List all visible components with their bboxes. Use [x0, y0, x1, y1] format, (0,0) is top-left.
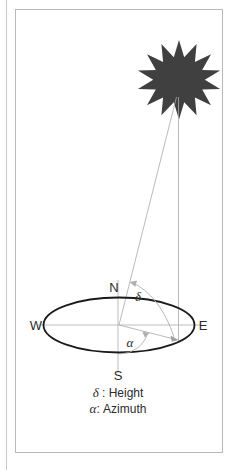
legend-azimuth-label: Azimuth	[103, 402, 146, 416]
legend-height-label: Height	[109, 386, 144, 400]
height-arc-arrowhead-icon	[130, 281, 138, 287]
cardinal-label-south: S	[114, 368, 123, 383]
sight-line-to-sun	[119, 97, 177, 325]
legend-height-separator: :	[99, 386, 109, 400]
cardinal-label-east: E	[199, 318, 208, 333]
legend-item-azimuth: α: Azimuth	[0, 401, 236, 417]
legend-item-height: δ : Height	[0, 385, 236, 401]
cardinal-label-north: N	[109, 280, 118, 295]
height-angle-label: δ	[135, 289, 142, 304]
figure-page: N S E W δ α δ : Height α: Azimuth	[0, 0, 236, 470]
azimuth-angle-label: α	[127, 335, 135, 350]
sun-star-icon	[138, 40, 220, 119]
cardinal-label-west: W	[30, 318, 43, 333]
azimuth-arrowhead-icon	[171, 336, 179, 342]
